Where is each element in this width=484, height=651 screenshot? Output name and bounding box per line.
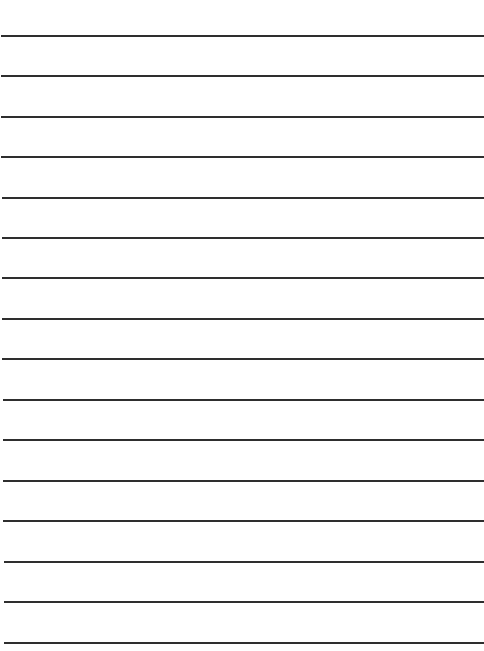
ruled-line bbox=[2, 277, 484, 279]
ruled-line bbox=[1, 35, 484, 37]
ruled-line bbox=[3, 480, 484, 482]
ruled-line bbox=[4, 642, 484, 644]
ruled-line bbox=[1, 75, 484, 77]
ruled-line bbox=[4, 601, 484, 603]
ruled-line bbox=[1, 116, 484, 118]
ruled-line bbox=[2, 318, 484, 320]
lined-paper-page bbox=[0, 0, 484, 651]
ruled-line bbox=[2, 237, 484, 239]
ruled-line bbox=[1, 156, 484, 158]
ruled-line bbox=[3, 439, 484, 441]
ruled-line bbox=[2, 197, 484, 199]
ruled-line bbox=[3, 520, 484, 522]
ruled-line bbox=[2, 358, 484, 360]
ruled-line bbox=[3, 399, 484, 401]
ruled-line bbox=[4, 561, 484, 563]
